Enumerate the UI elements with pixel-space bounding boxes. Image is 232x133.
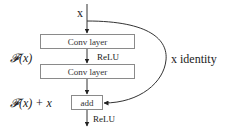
conv-layer-2: Conv layer	[40, 64, 135, 79]
input-label: x	[77, 7, 83, 19]
residual-block-diagram: x Conv layer ReLU Conv layer add ReLU 𝓕(…	[0, 0, 232, 133]
conv-layer-1: Conv layer	[40, 34, 135, 49]
fx-annotation: 𝓕(x)	[10, 52, 32, 64]
relu-label-2: ReLU	[93, 115, 115, 124]
add-node: add	[71, 95, 103, 110]
identity-label: x identity	[171, 53, 217, 65]
conv-layer-2-label: Conv layer	[68, 67, 108, 77]
fx-plus-x-annotation: 𝓕(x) + x	[10, 97, 52, 109]
add-node-label: add	[81, 98, 94, 108]
conv-layer-1-label: Conv layer	[68, 37, 108, 47]
relu-label-1: ReLU	[97, 53, 119, 62]
